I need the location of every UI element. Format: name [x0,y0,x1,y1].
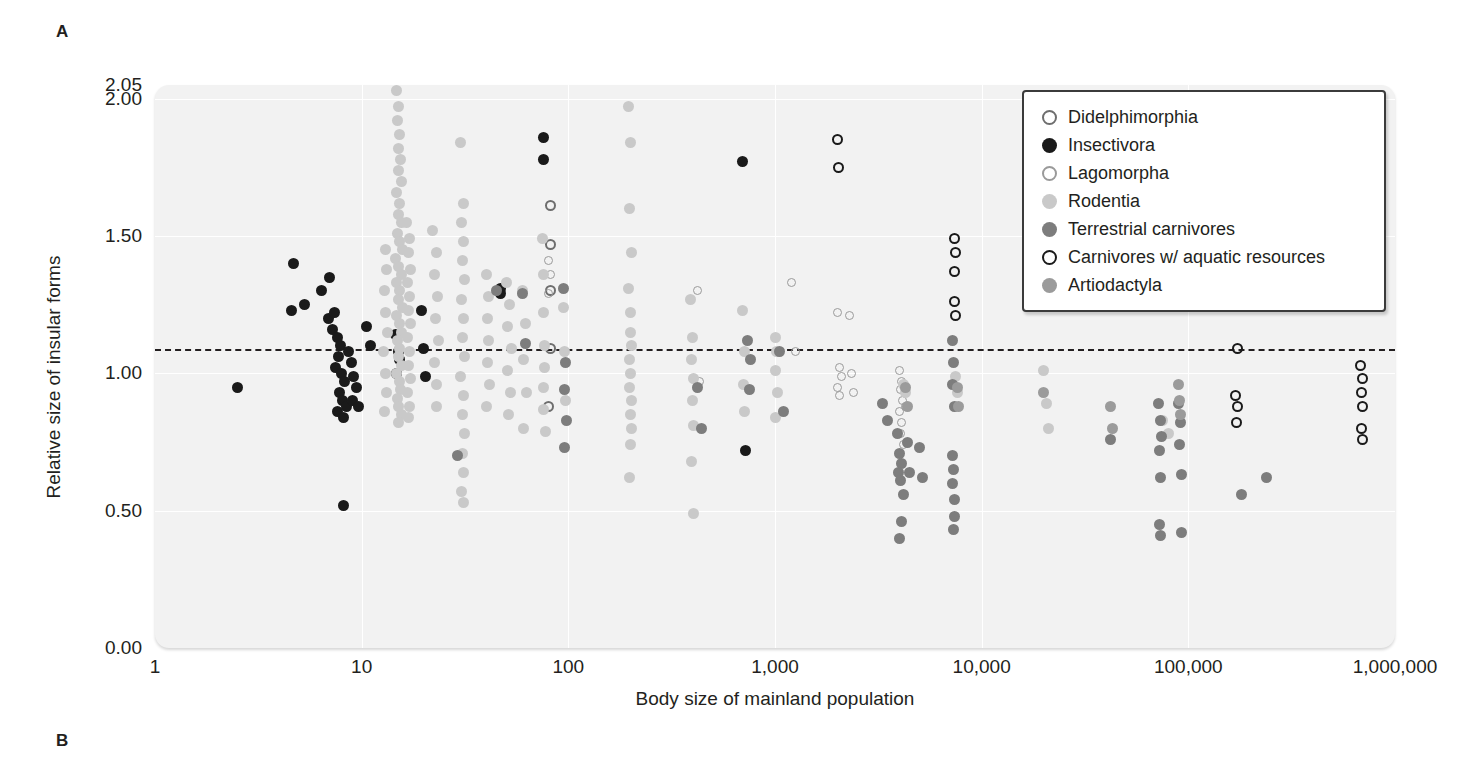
data-point [538,404,549,415]
data-point [1154,519,1165,530]
data-point [1105,401,1116,412]
data-point [338,500,349,511]
legend-item[interactable]: Insectivora [1024,131,1384,159]
data-point [952,382,963,393]
data-point [396,176,407,187]
x-axis-tick: 1,000,000 [1353,656,1438,678]
data-point [626,247,637,258]
legend-marker-icon [1042,110,1057,125]
data-point [538,154,549,165]
data-point [518,354,529,365]
data-point [686,456,697,467]
legend-item-label: Rodentia [1068,191,1140,212]
data-point [894,533,905,544]
data-point [458,236,469,247]
data-point [560,395,571,406]
legend-item-label: Lagomorpha [1068,163,1169,184]
data-point [518,423,529,434]
data-point [949,296,960,307]
data-point [353,401,364,412]
data-point [949,266,960,277]
data-point [459,274,470,285]
x-axis-title: Body size of mainland population [155,688,1395,710]
legend-item[interactable]: Lagomorpha [1024,159,1384,187]
data-point [403,247,414,258]
data-point [950,310,961,321]
data-point [895,475,906,486]
data-point [431,379,442,390]
data-point [484,379,495,390]
data-point [1176,527,1187,538]
data-point [772,387,783,398]
data-point [892,428,903,439]
data-point [343,346,354,357]
data-point [393,165,404,176]
data-point [896,516,907,527]
data-point [1232,401,1243,412]
data-point [538,132,549,143]
data-point [1357,401,1368,412]
data-point [1232,343,1243,354]
data-point [232,382,243,393]
data-point [625,307,636,318]
data-point [626,395,637,406]
data-point [380,244,391,255]
data-point [456,217,467,228]
legend-item[interactable]: Artiodactyla [1024,271,1384,299]
data-point [459,428,470,439]
panel-b-label: B [56,731,68,751]
data-point [947,478,958,489]
data-point [1038,365,1049,376]
data-point [740,445,751,456]
y-axis-tick: 1.50 [52,225,142,247]
data-point [687,332,698,343]
y-axis-tick: 0.50 [52,500,142,522]
data-point [394,129,405,140]
data-point [329,307,340,318]
data-point [900,382,911,393]
data-point [559,346,570,357]
data-point [404,291,415,302]
y-axis-tick: 1.00 [52,362,142,384]
legend-item[interactable]: Terrestrial carnivores [1024,215,1384,243]
legend-item[interactable]: Didelphimorphia [1024,103,1384,131]
data-point [457,255,468,266]
x-axis-tick: 100 [552,656,584,678]
data-point [391,187,402,198]
data-point [623,101,634,112]
gridline-vertical [362,85,363,648]
legend-item[interactable]: Carnivores w/ aquatic resources [1024,243,1384,271]
legend-marker-icon [1042,222,1057,237]
data-point [687,395,698,406]
data-point [394,198,405,209]
data-point [458,313,469,324]
data-point [742,335,753,346]
data-point [625,327,636,338]
data-point [395,154,406,165]
data-point [393,417,404,428]
data-point [953,401,964,412]
data-point [545,200,556,211]
data-point [739,406,750,417]
legend-item[interactable]: Rodentia [1024,187,1384,215]
data-point [692,382,703,393]
data-point [950,247,961,258]
data-point [882,415,893,426]
data-point [744,384,755,395]
data-point [379,406,390,417]
data-point [558,283,569,294]
data-point [404,346,415,357]
data-point [378,346,389,357]
data-point [1155,415,1166,426]
chart-legend: DidelphimorphiaInsectivoraLagomorphaRode… [1022,90,1386,312]
data-point [902,401,913,412]
data-point [458,198,469,209]
data-point [877,398,888,409]
data-point [1357,373,1368,384]
data-point [1156,431,1167,442]
data-point [452,450,463,461]
data-point [483,335,494,346]
data-point [403,360,414,371]
data-point [696,423,707,434]
data-point [948,524,959,535]
